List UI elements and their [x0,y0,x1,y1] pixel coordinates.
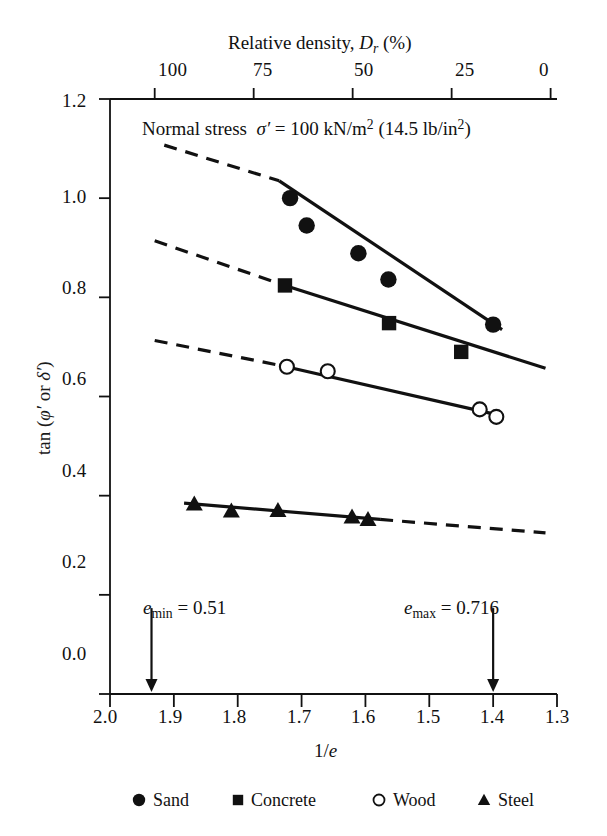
data-series-layer [155,145,546,533]
legend-label-steel: Steel [498,791,534,809]
point-sand-1 [298,217,314,233]
top-axis-title-variable: D [359,32,373,53]
normal-stress-value: 100 kN/m [290,118,367,139]
legend-label-wood: Wood [393,791,436,809]
top-tick-label-100: 100 [158,60,187,79]
top-tick-label-50: 50 [354,60,373,79]
e-min-subscript: min [151,606,172,621]
y-tick-label-0-2: 0.2 [62,552,86,571]
y-axis-title-delta: δ′ [33,368,54,381]
y-tick-label-0-4: 0.4 [62,461,86,480]
series-wood [155,340,504,423]
top-tick-label-75: 75 [253,60,272,79]
point-steel-2 [269,502,286,517]
x-tick-label-1-8: 1.8 [222,707,246,726]
point-steel-1 [223,503,240,518]
top-axis-title-prefix: Relative density, [228,32,359,53]
point-concrete-2 [454,345,468,359]
top-axis-title: Relative density, Dr (%) [228,33,412,56]
trend-dashed-steel [380,519,545,532]
e-max-subscript: max [412,606,436,621]
trend-dashed-sand [164,145,279,181]
legend-marker-sand [131,792,147,808]
y-tick-label-1-2: 1.2 [62,91,86,110]
y-tick-label-0-6: 0.6 [62,369,86,388]
x-tick-label-1-5: 1.5 [416,707,440,726]
legend-marker-wood [371,792,387,808]
y-axis-ticks [99,99,110,694]
annotation-arrows [146,608,500,692]
normal-stress-prefix: Normal stress [142,118,247,139]
trend-solid-sand [279,181,502,330]
x-axis-title-variable: e [329,740,337,761]
point-wood-3 [489,410,503,424]
point-wood-2 [473,402,487,416]
y-axis-title-close: ) [33,361,54,367]
trend-solid-concrete [282,284,546,368]
legend-marker-concrete [231,793,245,807]
trend-dashed-wood [155,340,282,365]
y-axis-title: tan (φ′ or δ′) [33,361,55,455]
figure-container: Relative density, Dr (%) 100 75 50 25 0 … [0,0,607,836]
x-tick-label-1-3: 1.3 [545,707,569,726]
point-sand-3 [380,271,396,287]
legend-marker-steel [476,792,492,808]
point-sand-2 [350,245,366,261]
y-tick-label-1-0: 1.0 [62,187,86,206]
point-sand-4 [485,316,501,332]
legend-label-sand: Sand [153,791,189,809]
top-axis-ticks [155,88,551,99]
e-max-value: = 0.716 [436,597,499,618]
x-tick-label-2-0: 2.0 [93,707,117,726]
point-wood-1 [321,364,335,378]
top-axis-title-suffix: (%) [378,32,411,53]
point-wood-0 [280,360,294,374]
trend-dashed-concrete [155,241,282,285]
y-axis-title-or: or [33,381,54,406]
arrow-e-max [487,608,499,692]
point-concrete-0 [278,278,292,292]
x-tick-label-1-4: 1.4 [480,707,504,726]
series-steel [184,496,545,533]
normal-stress-close-paren: ) [464,118,470,139]
e-min-annotation: emin = 0.51 [143,598,226,621]
normal-stress-exponent: 2 [367,117,374,132]
series-concrete [155,241,546,368]
point-steel-0 [186,496,203,511]
x-axis-title: 1/e [314,741,337,760]
normal-stress-note: Normal stress σ′ = 100 kN/m2 (14.5 lb/in… [142,118,471,138]
point-sand-0 [282,190,298,206]
e-min-value: = 0.51 [173,597,226,618]
y-axis-title-prefix: tan ( [33,421,54,455]
y-tick-label-0-0: 0.0 [62,644,86,663]
x-axis-title-numerator: 1/ [314,740,329,761]
point-steel-4 [359,511,376,526]
normal-stress-imperial: (14.5 lb/in [378,118,457,139]
e-max-annotation: emax = 0.716 [404,598,499,621]
trend-solid-wood [282,366,502,416]
top-tick-label-25: 25 [455,60,474,79]
point-concrete-1 [382,316,396,330]
series-sand [164,145,502,333]
y-axis-title-phi: φ′ [33,406,54,421]
top-tick-label-0: 0 [539,60,549,79]
point-steel-3 [344,508,361,523]
x-tick-label-1-6: 1.6 [351,707,375,726]
x-tick-label-1-7: 1.7 [287,707,311,726]
equals-symbol: = [275,118,286,139]
y-tick-label-0-8: 0.8 [62,278,86,297]
sigma-symbol: σ′ [257,118,271,139]
x-tick-label-1-9: 1.9 [158,707,182,726]
trend-solid-steel [184,503,380,519]
legend-label-concrete: Concrete [251,791,316,809]
